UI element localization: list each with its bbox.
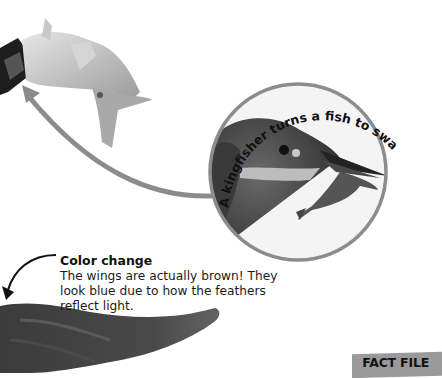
callout-body: The wings are actually brown! They look … [60,269,280,314]
callout-title: Color change [60,253,152,268]
fact-file-label: FACT FILE [362,355,429,370]
callout-arrow [2,255,56,300]
fish-tail-image [0,18,152,148]
